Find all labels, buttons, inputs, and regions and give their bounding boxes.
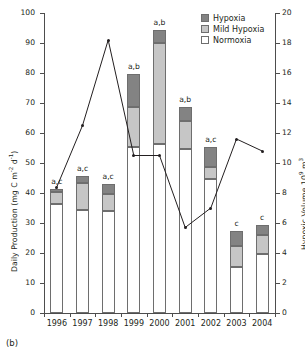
legend-swatch-icon <box>201 25 209 33</box>
line-point-2002[interactable] <box>209 207 212 210</box>
line-point-2003[interactable] <box>235 138 238 141</box>
line-point-1997[interactable] <box>81 124 84 127</box>
legend-swatch-icon <box>201 36 209 44</box>
legend-item-label: Mild Hypoxia <box>213 25 264 34</box>
legend-item-mild-hypoxia[interactable]: Mild Hypoxia <box>201 25 264 36</box>
line-point-2000[interactable] <box>158 154 161 157</box>
line-point-2001[interactable] <box>184 226 187 229</box>
chart-legend: Hypoxia Mild Hypoxia Normoxia <box>201 14 264 47</box>
line-point-2004[interactable] <box>261 150 264 153</box>
legend-item-label: Hypoxia <box>213 14 245 23</box>
line-point-1996[interactable] <box>55 186 58 189</box>
legend-swatch-icon <box>201 14 209 22</box>
legend-item-hypoxia[interactable]: Hypoxia <box>201 14 264 25</box>
figure-caption: (b) <box>6 338 18 348</box>
legend-item-label: Normoxia <box>213 36 251 45</box>
legend-item-normoxia[interactable]: Normoxia <box>201 36 264 47</box>
figure-panel-b: Daily Production (mg C m-2 d-1) Hypoxic … <box>0 0 305 356</box>
line-point-1998[interactable] <box>107 39 110 42</box>
hypoxic-volume-line <box>0 0 305 356</box>
